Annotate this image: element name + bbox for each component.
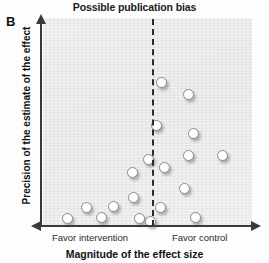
scatter-point [134,213,145,224]
plot-background-texture [43,18,252,226]
scatter-point [179,183,190,194]
scatter-point [96,212,107,223]
scatter-point [81,202,92,213]
x-axis-left-arrowhead-icon [31,221,41,231]
panel-letter-label: B [6,14,15,29]
x-axis-right-arrowhead-icon [251,221,261,231]
scatter-point [183,150,194,161]
scatter-point [188,128,199,139]
y-axis-title: Precision of the estimate of the effect [21,16,32,216]
y-axis-line [40,22,42,227]
scatter-point [190,212,201,223]
null-effect-reference-line [152,19,154,226]
scatter-point [108,201,119,212]
scatter-point [62,213,73,224]
x-axis-title: Magnitude of the effect size [0,248,269,260]
x-axis-left-direction-label: Favor intervention [52,232,128,243]
y-axis-arrowhead-icon [36,14,46,24]
scatter-point [128,192,139,203]
scatter-point [155,202,166,213]
figure-panel-b: Possible publication bias B Precision of… [0,0,269,263]
scatter-point [159,162,170,173]
scatter-point [217,150,228,161]
plot-area [43,18,252,226]
scatter-point [183,89,194,100]
x-axis-line [40,225,254,227]
x-axis-right-direction-label: Favor control [172,232,227,243]
chart-title: Possible publication bias [0,0,269,14]
scatter-point [127,167,138,178]
scatter-point [156,77,167,88]
